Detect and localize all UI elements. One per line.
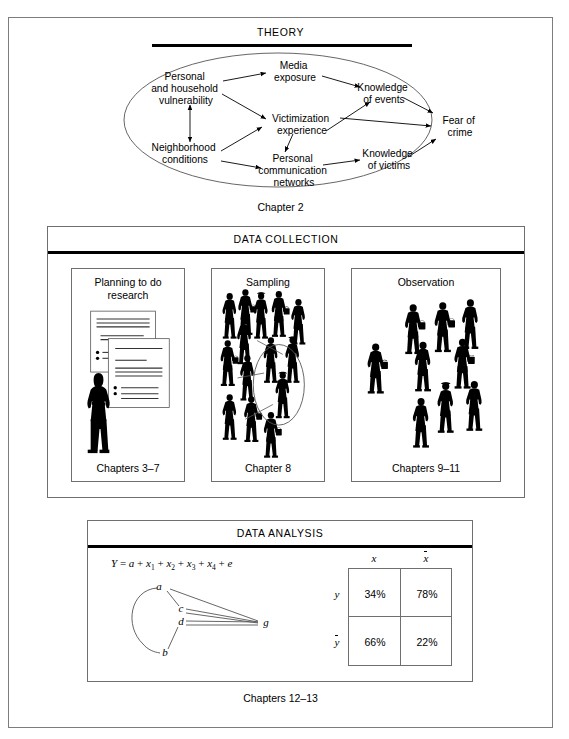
edge-victim-fear <box>340 118 431 126</box>
panel-observation[interactable]: Observation <box>351 268 501 482</box>
theory-section-caption: Chapter 2 <box>8 201 553 213</box>
edge-neigh-victim <box>221 127 262 151</box>
network-graph: a c d b g <box>110 574 310 674</box>
crosstab-cell-y-x: 34% <box>349 569 401 618</box>
edge-b-d <box>168 627 178 649</box>
panel-sampling-caption: Chapter 8 <box>212 462 324 474</box>
edge-media-knowevents <box>322 76 360 87</box>
crosstab-row-header-y-bar: y <box>328 636 346 648</box>
regression-equation: Y = a + x1 + x2 + x3 + x4 + e <box>111 557 232 572</box>
edge-victim-pcn <box>285 134 293 152</box>
data-collection-section-title: DATA COLLECTION <box>48 233 524 245</box>
panel-observation-caption: Chapters 9–11 <box>352 462 500 474</box>
data-analysis-section: DATA ANALYSIS Y = a + x1 + x2 + x3 + x4 … <box>87 520 473 682</box>
edge-neigh-pcn <box>221 161 261 168</box>
theory-node-pcn: Personal communication networks <box>258 153 329 188</box>
network-node-b: b <box>162 646 168 658</box>
observation-illustration <box>352 269 500 481</box>
theory-node-neighborhood: Neighborhood conditions <box>152 142 219 165</box>
network-node-g: g <box>263 616 269 628</box>
theory-node-fear: Fear of crime <box>442 115 477 138</box>
data-collection-panels: Planning to do research <box>48 254 524 497</box>
edge-c-g <box>186 609 258 622</box>
network-node-c: c <box>179 602 184 614</box>
theory-path-diagram: Personal and household vulnerability Med… <box>8 47 553 199</box>
edge-a-b-arc <box>132 588 160 653</box>
crosstab-cell-ybar-xbar: 22% <box>401 617 453 666</box>
panel-sampling[interactable]: Sampling <box>211 268 325 482</box>
crosstab-cell-ybar-x: 66% <box>349 617 401 666</box>
theory-node-knowledge-events: Knowledge of events <box>357 82 410 105</box>
crosstab-col-header-x: x <box>348 552 400 564</box>
data-analysis-section-caption: Chapters 12–13 <box>8 692 553 704</box>
theory-node-victimization: Victimization experience <box>272 113 332 136</box>
crosstab-grid: 34% 78% 66% 22% <box>348 568 452 666</box>
theory-node-knowledge-victims: Knowledge of victims <box>362 148 415 171</box>
panel-planning-to-do-research[interactable]: Planning to do research <box>71 268 185 482</box>
observation-figures <box>367 299 482 447</box>
edge-phv-victim <box>222 94 266 119</box>
data-analysis-body: Y = a + x1 + x2 + x3 + x4 + e a <box>88 548 472 681</box>
researcher-silhouette <box>87 373 109 453</box>
panel-planning-caption: Chapters 3–7 <box>72 462 184 474</box>
network-node-a: a <box>156 580 162 592</box>
crosstab-cell-y-xbar: 78% <box>401 569 453 618</box>
theory-node-media: Media exposure <box>274 60 316 83</box>
network-node-d: d <box>178 615 184 627</box>
crosstab-table: x x y y 34% 78% 66% 22% <box>328 552 460 668</box>
data-collection-section: DATA COLLECTION Planning to do research <box>47 226 525 498</box>
sampling-illustration <box>212 269 324 481</box>
crosstab-col-header-x-bar: x <box>400 552 452 564</box>
theory-section-title: THEORY <box>8 26 553 38</box>
crosstab-row-header-y: y <box>328 588 346 600</box>
edge-pcn-knowevents <box>326 102 370 131</box>
edge-a-c <box>167 591 179 606</box>
planning-illustration <box>72 269 184 481</box>
edge-phv-media <box>223 73 266 81</box>
theory-section: THEORY <box>8 17 553 222</box>
data-analysis-section-title: DATA ANALYSIS <box>88 527 472 539</box>
